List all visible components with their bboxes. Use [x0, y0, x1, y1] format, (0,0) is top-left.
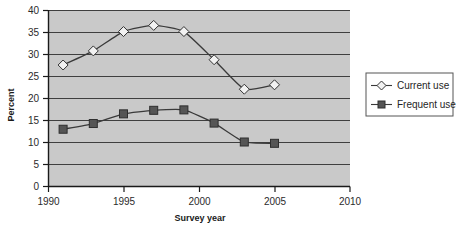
data-point-filled-square: [180, 106, 188, 114]
data-point-filled-square: [210, 119, 218, 127]
data-point-filled-square: [240, 138, 248, 146]
x-tick-label-2000: 2000: [188, 196, 211, 207]
legend-label-current-use: Current use: [397, 80, 450, 91]
line-chart: 40 35 30 25 20 15 10 5 0 1990 1995 2000 …: [0, 0, 457, 237]
x-tick-label-1995: 1995: [113, 196, 136, 207]
legend: Current use Frequent use: [366, 73, 456, 116]
y-tick-label-30: 30: [28, 49, 40, 60]
chart-canvas: 40 35 30 25 20 15 10 5 0 1990 1995 2000 …: [0, 0, 457, 237]
legend-item-frequent-use[interactable]: Frequent use: [371, 99, 456, 110]
y-tick-label-5: 5: [33, 159, 39, 170]
y-tick-label-15: 15: [28, 115, 40, 126]
y-tick-label-10: 10: [28, 137, 40, 148]
legend-label-frequent-use: Frequent use: [397, 99, 456, 110]
y-tick-label-35: 35: [28, 27, 40, 38]
y-tick-label-40: 40: [28, 5, 40, 16]
filled-square-icon: [378, 101, 385, 108]
y-tick-label-0: 0: [33, 181, 39, 192]
x-tick-labels: 1990 1995 2000 2005 2010: [37, 196, 361, 207]
y-tick-labels: 40 35 30 25 20 15 10 5 0: [28, 5, 40, 192]
y-tick-label-25: 25: [28, 71, 40, 82]
x-tick-label-1990: 1990: [37, 196, 60, 207]
x-axis-title: Survey year: [174, 213, 226, 223]
x-tick-label-2010: 2010: [339, 196, 362, 207]
data-point-filled-square: [120, 110, 128, 118]
data-point-filled-square: [271, 139, 279, 147]
data-point-filled-square: [89, 120, 97, 128]
x-axis-ticks: [49, 187, 351, 193]
data-point-filled-square: [150, 106, 158, 114]
y-tick-label-20: 20: [28, 93, 40, 104]
y-axis-title: Percent: [6, 88, 16, 121]
x-tick-label-2005: 2005: [264, 196, 287, 207]
data-point-filled-square: [59, 125, 67, 133]
legend-item-current-use[interactable]: Current use: [371, 80, 450, 91]
y-axis-ticks: [43, 11, 48, 187]
